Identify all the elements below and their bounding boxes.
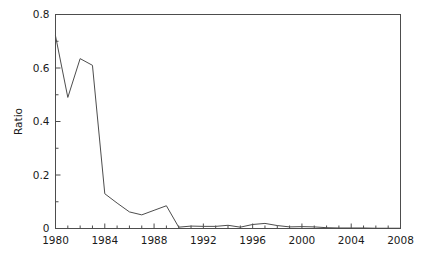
x-tick-label: 2004	[338, 234, 365, 246]
y-tick-label: 0.6	[33, 62, 50, 74]
y-tick-label: 0.2	[33, 169, 50, 181]
y-tick-label: 0.8	[33, 8, 50, 20]
y-axis-title: Ratio	[12, 108, 24, 135]
y-tick-label: 0.4	[33, 115, 50, 127]
x-tick-label: 1992	[190, 234, 217, 246]
y-tick-label: 0	[43, 222, 50, 234]
x-tick-label: 1988	[141, 234, 168, 246]
line-chart: 00.20.40.60.8 19801984198819921996200020…	[0, 0, 429, 265]
x-tick-label: 2000	[289, 234, 316, 246]
x-tick-label: 1996	[239, 234, 266, 246]
chart-background	[0, 0, 429, 265]
x-tick-label: 2008	[387, 234, 414, 246]
x-tick-label: 1984	[91, 234, 118, 246]
x-tick-label: 1980	[42, 234, 69, 246]
chart-figure: 00.20.40.60.8 19801984198819921996200020…	[0, 0, 429, 265]
